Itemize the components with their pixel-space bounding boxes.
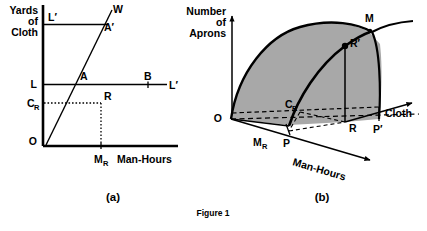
panel-b-label-p: P [283, 137, 290, 149]
panel-a-label-w: W [113, 3, 123, 15]
panel-a-label-upper-budget-left: L′ [48, 11, 57, 23]
panel-a-label-l: L [31, 78, 38, 90]
panel-a-label-manhours-r-base: M [94, 153, 103, 165]
panel-a-y-axis-label-line3: Cloth [11, 26, 38, 38]
panel-b-label-manhours-r-sub: R [262, 142, 268, 151]
panel-a-label-manhours-r: M R [94, 153, 109, 168]
panel-a: Yards of Cloth L′ W A′ L L′ A B C R R O [9, 3, 178, 203]
panel-a-label-cloth-r: C R [27, 97, 40, 112]
panel-b-label-manhours-r-base: M [253, 136, 262, 148]
panel-b-tag: (b) [315, 191, 330, 203]
panel-b-label-m: M [365, 12, 374, 24]
panel-b-y-axis-label-line3: Aprons [189, 27, 226, 39]
panel-a-label-origin: O [29, 135, 37, 147]
panel-a-label-b: B [144, 70, 152, 82]
panel-b-label-p-prime: P′ [373, 123, 383, 135]
panel-b-point-r-prime-marker [342, 43, 348, 49]
panel-b-crest-curve-right [372, 21, 413, 32]
figure-caption: Figure 1 [196, 208, 229, 218]
panel-b-label-cloth-r-sub: R [292, 104, 298, 113]
figure-1: Yards of Cloth L′ W A′ L L′ A B C R R O [0, 0, 427, 231]
panel-a-label-cloth-r-sub: R [34, 103, 40, 112]
panel-b-point-m-marker [368, 29, 372, 33]
panel-a-x-axis-label: Man-Hours [117, 153, 172, 165]
panel-a-label-a-prime: A′ [104, 21, 115, 33]
panel-a-label-manhours-r-sub: R [103, 159, 109, 168]
panel-a-wage-line [46, 10, 112, 145]
panel-b-manhours-axis-label: Man-Hours [291, 155, 347, 182]
panel-a-label-r: R [104, 90, 112, 102]
panel-b-label-r: R [349, 122, 357, 134]
panel-b-cloth-axis-label: Cloth [385, 107, 412, 119]
panel-b-label-origin: O [214, 112, 222, 124]
panel-b: Number of Aprons [186, 5, 419, 203]
panel-a-tag: (a) [106, 191, 120, 203]
panel-b-label-manhours-r: M R [253, 136, 268, 151]
panel-a-label-lower-budget-right: L′ [169, 79, 178, 91]
panel-b-label-r-prime: R′ [350, 37, 361, 49]
panel-a-label-a: A [80, 70, 88, 82]
